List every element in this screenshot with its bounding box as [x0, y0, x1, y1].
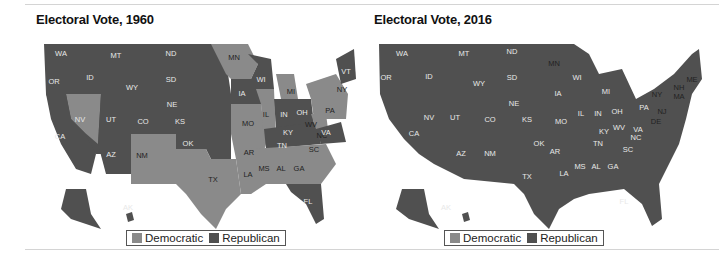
democratic-label: Democratic: [463, 232, 521, 244]
svg-text:TN: TN: [277, 141, 287, 150]
svg-text:WA: WA: [55, 49, 67, 58]
svg-text:ND: ND: [507, 47, 518, 56]
svg-text:ME: ME: [686, 75, 697, 84]
svg-text:OR: OR: [48, 77, 60, 86]
svg-text:AK: AK: [123, 203, 133, 212]
svg-text:NC: NC: [631, 133, 642, 142]
svg-text:IA: IA: [554, 89, 561, 98]
svg-text:WI: WI: [256, 75, 265, 84]
svg-text:TN: TN: [593, 139, 603, 148]
svg-text:TX: TX: [208, 175, 218, 184]
svg-text:NV: NV: [75, 115, 85, 124]
svg-text:KY: KY: [599, 127, 609, 136]
democratic-label: Democratic: [145, 232, 203, 244]
svg-text:ID: ID: [86, 73, 94, 82]
svg-text:AK: AK: [441, 203, 451, 212]
svg-text:MO: MO: [242, 119, 254, 128]
svg-text:OK: OK: [534, 139, 545, 148]
svg-text:IL: IL: [263, 110, 269, 119]
svg-text:NH: NH: [674, 83, 685, 92]
svg-text:LA: LA: [243, 170, 252, 179]
bottom-divider: [25, 249, 719, 250]
svg-text:NM: NM: [484, 149, 496, 158]
republican-swatch: [209, 233, 219, 243]
svg-text:UT: UT: [450, 113, 460, 122]
svg-text:MI: MI: [602, 87, 610, 96]
svg-text:NE: NE: [509, 99, 519, 108]
democratic-swatch: [450, 233, 460, 243]
svg-text:MS: MS: [258, 164, 269, 173]
us-map-1960: WAMTND MNORID WYSDWI IANEMI NVUTCO KSMOI…: [36, 34, 356, 234]
svg-text:MT: MT: [111, 51, 122, 60]
svg-text:MN: MN: [548, 59, 560, 68]
svg-text:NE: NE: [167, 100, 177, 109]
svg-text:GA: GA: [294, 164, 305, 173]
svg-text:IA: IA: [238, 89, 245, 98]
svg-text:WI: WI: [572, 73, 581, 82]
svg-text:OH: OH: [611, 107, 622, 116]
svg-text:MS: MS: [574, 162, 585, 171]
map-panel-1960: Electoral Vote, 1960: [36, 12, 376, 244]
svg-text:AZ: AZ: [456, 149, 466, 158]
svg-text:VA: VA: [633, 125, 642, 134]
republican-swatch: [527, 233, 537, 243]
svg-text:WY: WY: [473, 79, 485, 88]
svg-text:MT: MT: [459, 49, 470, 58]
svg-text:MO: MO: [555, 117, 567, 126]
svg-text:WV: WV: [305, 120, 317, 129]
svg-text:AZ: AZ: [106, 150, 116, 159]
svg-text:KY: KY: [283, 128, 293, 137]
svg-text:FL: FL: [620, 197, 629, 206]
republican-label: Republican: [540, 232, 598, 244]
map-title: Electoral Vote, 2016: [374, 12, 492, 27]
legend-republican: Republican: [527, 232, 598, 244]
svg-text:WY: WY: [126, 83, 138, 92]
svg-text:AR: AR: [244, 148, 255, 157]
map-panel-2016: Electoral Vote, 2016 WAMTND MNORID WYSDW…: [374, 12, 714, 244]
svg-text:OR: OR: [380, 73, 392, 82]
svg-text:CA: CA: [55, 132, 65, 141]
svg-text:AL: AL: [591, 162, 600, 171]
svg-text:DE: DE: [651, 117, 661, 126]
svg-text:KS: KS: [175, 117, 185, 126]
svg-text:OK: OK: [183, 139, 194, 148]
legend-republican: Republican: [209, 232, 280, 244]
svg-text:ID: ID: [425, 72, 433, 81]
svg-text:KS: KS: [522, 115, 532, 124]
svg-text:VT: VT: [341, 67, 351, 76]
svg-text:SD: SD: [507, 73, 518, 82]
svg-text:CO: CO: [484, 115, 495, 124]
svg-text:GA: GA: [608, 162, 619, 171]
us-map-2016: WAMTND MNORID WYSDWI IANEMI NVUTCO KSMOI…: [374, 34, 704, 234]
svg-text:IN: IN: [594, 109, 602, 118]
svg-text:VA: VA: [321, 128, 330, 137]
legend: Democratic Republican: [126, 230, 286, 246]
svg-text:MN: MN: [228, 53, 240, 62]
democratic-swatch: [132, 233, 142, 243]
svg-text:NM: NM: [136, 151, 148, 160]
svg-text:WA: WA: [396, 49, 408, 58]
svg-text:NY: NY: [652, 90, 662, 99]
svg-text:AL: AL: [276, 164, 285, 173]
svg-text:AR: AR: [550, 147, 561, 156]
top-divider: [25, 4, 719, 5]
svg-text:SC: SC: [623, 145, 634, 154]
svg-text:IN: IN: [280, 110, 288, 119]
svg-text:SD: SD: [166, 75, 177, 84]
svg-text:IL: IL: [578, 109, 584, 118]
svg-text:ND: ND: [166, 49, 177, 58]
svg-text:MI: MI: [287, 87, 295, 96]
svg-text:NJ: NJ: [657, 107, 666, 116]
republican-label: Republican: [222, 232, 280, 244]
svg-text:MA: MA: [673, 92, 684, 101]
svg-text:SC: SC: [309, 145, 320, 154]
svg-text:NY: NY: [337, 85, 347, 94]
svg-text:PA: PA: [639, 103, 648, 112]
svg-text:UT: UT: [106, 115, 116, 124]
map-title: Electoral Vote, 1960: [36, 12, 154, 27]
legend: Democratic Republican: [444, 230, 604, 246]
svg-text:FL: FL: [304, 197, 313, 206]
legend-democratic: Democratic: [450, 232, 521, 244]
svg-text:WV: WV: [613, 123, 625, 132]
svg-text:OH: OH: [296, 108, 307, 117]
